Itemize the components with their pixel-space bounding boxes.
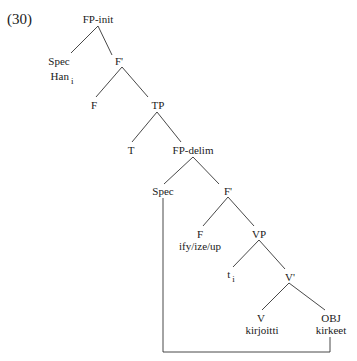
index-i: i [71, 76, 74, 86]
node-obj: OBJ [321, 312, 341, 324]
node-f-mid-word: ify/ize/up [179, 240, 221, 252]
example-number: (30) [7, 11, 32, 27]
node-f-top: F [91, 99, 97, 111]
node-fbar-mid: F' [224, 185, 232, 197]
node-fp-init: FP-init [83, 13, 114, 25]
node-fp-delim: FP-delim [173, 144, 214, 156]
node-v-word: kirjoitti [246, 324, 279, 336]
node-spec-top: Spec [48, 55, 69, 67]
node-fbar-top: F' [115, 55, 123, 67]
trace-t: t [227, 268, 230, 280]
node-spec-top-word: Hani [51, 70, 74, 83]
trace-index: i [232, 274, 235, 284]
node-tp: TP [152, 99, 165, 111]
node-trace: ti [227, 268, 235, 281]
node-spec-mid: Spec [152, 185, 173, 197]
node-v: V [257, 312, 265, 324]
node-vbar: V' [285, 271, 295, 283]
node-vp: VP [252, 228, 266, 240]
node-t: T [128, 144, 135, 156]
node-f-mid: F [197, 228, 203, 240]
node-obj-word: kirkeet [316, 324, 347, 336]
word-han: Han [51, 70, 69, 82]
